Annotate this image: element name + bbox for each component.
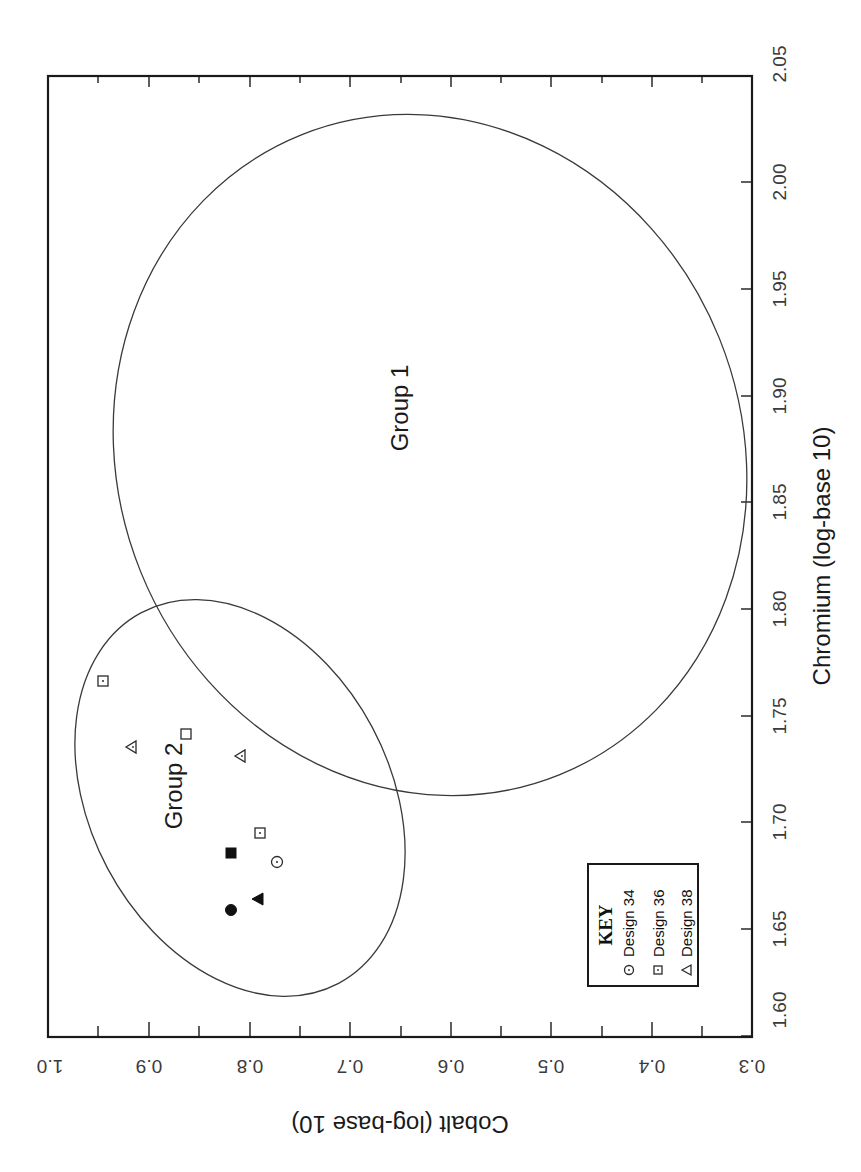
group2-ellipse	[9, 542, 471, 1054]
point-design38	[235, 750, 245, 762]
co-tick-0-7: 0.7	[337, 1056, 363, 1077]
data-points	[98, 676, 283, 916]
group2-label: Group 2	[160, 743, 187, 830]
cobalt-tick-labels: 1.0 0.9 0.8 0.7 0.6 0.5 0.4 0.3	[37, 1056, 765, 1077]
legend-label: Design 36	[650, 889, 667, 957]
legend-label: Design 38	[678, 889, 695, 957]
chromium-tick-labels: 1.60 1.65 1.70 1.75 1.80 1.85 1.90 1.95 …	[769, 46, 790, 1029]
co-tick-0-9: 0.9	[136, 1056, 162, 1077]
cr-tick-1-65: 1.65	[769, 911, 790, 948]
point-filled-square	[226, 848, 236, 858]
co-tick-0-6: 0.6	[438, 1056, 464, 1077]
legend: KEY Design 34 Design 36 Design 38	[588, 864, 698, 986]
point-design36	[255, 828, 265, 838]
cr-tick-2-00: 2.00	[769, 164, 790, 201]
cr-tick-1-85: 1.85	[769, 484, 790, 521]
x-axis-title: Chromium (log-base 10)	[808, 427, 835, 686]
legend-title: KEY	[595, 904, 616, 945]
point-design38	[126, 741, 136, 753]
cobalt-ticks-bottom	[98, 1022, 702, 1037]
group1-ellipse	[11, 18, 848, 892]
cr-tick-1-75: 1.75	[769, 698, 790, 735]
y-axis-title: Cobalt (log-base 10)	[291, 1111, 508, 1138]
cr-tick-2-05: 2.05	[769, 46, 790, 83]
cr-tick-1-70: 1.70	[769, 804, 790, 841]
co-tick-1-0: 1.0	[37, 1056, 63, 1077]
cr-tick-1-80: 1.80	[769, 591, 790, 628]
cr-tick-1-60: 1.60	[769, 992, 790, 1029]
cr-tick-1-95: 1.95	[769, 271, 790, 308]
point-design36	[98, 676, 108, 686]
co-tick-0-5: 0.5	[538, 1056, 564, 1077]
point-design34	[272, 857, 283, 868]
co-tick-0-3: 0.3	[739, 1056, 765, 1077]
legend-label: Design 34	[620, 889, 637, 957]
co-tick-0-8: 0.8	[237, 1056, 263, 1077]
cobalt-ticks-top	[98, 76, 702, 87]
point-design36	[181, 729, 191, 739]
cr-tick-1-90: 1.90	[769, 378, 790, 415]
point-filled-circle	[226, 905, 237, 916]
rotated-scatter-chart: 1.60 1.65 1.70 1.75 1.80 1.85 1.90 1.95 …	[0, 0, 861, 1172]
point-filled-triangle	[252, 893, 263, 905]
chromium-ticks	[741, 182, 752, 1036]
group1-label: Group 1	[386, 365, 413, 452]
co-tick-0-4: 0.4	[638, 1056, 665, 1077]
